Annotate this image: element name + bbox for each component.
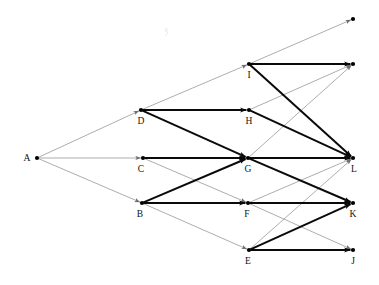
node-label-b: B: [137, 209, 143, 219]
scan-artifact-mark: [165, 28, 168, 36]
node-labels-layer: ABCDEFGHIJKL: [24, 70, 358, 266]
node-l[interactable]: [351, 156, 355, 160]
graph-canvas: ABCDEFGHIJKL: [0, 0, 379, 285]
edge-d-to-i: [142, 65, 247, 110]
edge-h-to-l: [250, 111, 350, 157]
node-d[interactable]: [139, 108, 143, 112]
node-n2[interactable]: [351, 62, 355, 66]
artifact-layer: [165, 28, 168, 36]
node-label-j: J: [351, 256, 355, 266]
node-label-k: K: [350, 209, 357, 219]
node-label-d: D: [138, 116, 145, 126]
node-n1[interactable]: [351, 17, 355, 21]
node-label-c: C: [138, 164, 144, 174]
node-label-f: F: [244, 209, 249, 219]
node-label-e: E: [245, 256, 251, 266]
edge-a-to-d: [38, 111, 139, 157]
node-h[interactable]: [247, 108, 251, 112]
edge-i-to-n1: [250, 20, 351, 63]
edge-d-to-g: [142, 111, 245, 157]
node-e[interactable]: [247, 248, 251, 252]
node-g[interactable]: [246, 156, 250, 160]
node-b[interactable]: [140, 201, 144, 205]
edge-b-to-e: [143, 204, 247, 249]
node-j[interactable]: [351, 248, 355, 252]
edge-b-to-g: [143, 159, 245, 202]
edge-a-to-b: [38, 159, 140, 203]
node-k[interactable]: [351, 201, 355, 205]
edge-g-to-k: [249, 159, 350, 202]
node-label-i: I: [247, 70, 250, 80]
node-label-h: H: [246, 116, 253, 126]
node-label-a: A: [24, 153, 31, 163]
graph-svg: ABCDEFGHIJKL: [0, 0, 379, 285]
node-label-g: G: [245, 164, 252, 174]
edge-e-to-l: [250, 159, 351, 248]
node-a[interactable]: [35, 156, 39, 160]
node-c[interactable]: [141, 156, 145, 160]
node-label-l: L: [351, 164, 357, 174]
node-f[interactable]: [246, 201, 250, 205]
edge-h-to-n2: [250, 65, 351, 109]
node-i[interactable]: [247, 62, 251, 66]
